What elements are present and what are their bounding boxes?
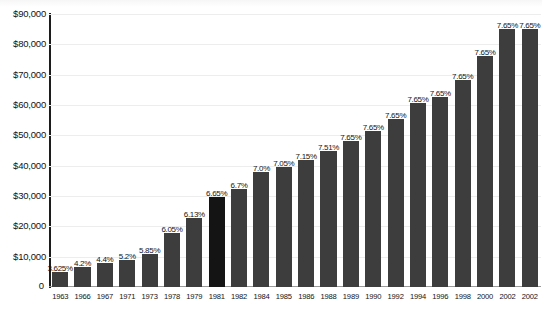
y-axis-tick-label: $10,000: [0, 251, 46, 262]
x-axis-tick-label: 1998: [452, 292, 474, 301]
bar-column[interactable]: 7.65%: [474, 14, 496, 287]
bar-column[interactable]: 7.65%: [429, 14, 451, 287]
bar-column[interactable]: 6.7%: [228, 14, 250, 287]
bar-value-label: 7.65%: [407, 95, 428, 104]
bar[interactable]: 7.51%: [320, 151, 336, 288]
y-axis-tick-label: $40,000: [0, 160, 46, 171]
bar[interactable]: 4.4%: [97, 263, 113, 287]
y-axis-tick-label: 0: [0, 280, 44, 291]
bar-value-label: 7.65%: [452, 72, 473, 81]
bar[interactable]: 7.65%: [477, 56, 493, 287]
bar[interactable]: 3.625%: [52, 272, 68, 287]
bar-value-label: 7.0%: [253, 164, 270, 173]
bottom-margin: [0, 309, 542, 319]
bar-value-label: 7.65%: [519, 21, 540, 30]
x-axis-tick-label: 1981: [206, 292, 228, 301]
bar-column[interactable]: 6.05%: [161, 14, 183, 287]
x-axis-tick-label: 1988: [317, 292, 339, 301]
bar-column[interactable]: 7.65%: [496, 14, 518, 287]
bar[interactable]: 7.0%: [253, 172, 269, 287]
x-axis-tick-label: 1985: [273, 292, 295, 301]
bar[interactable]: 7.65%: [522, 29, 538, 287]
bar-value-label: 7.15%: [296, 152, 317, 161]
y-axis-tick-label: $80,000: [0, 38, 46, 49]
bar[interactable]: 7.65%: [432, 97, 448, 287]
bar-chart: 0$10,000$20,000$30,000$40,000$50,000$60,…: [0, 0, 542, 319]
x-axis-tick-label: 1967: [94, 292, 116, 301]
x-axis-tick-label: 1978: [161, 292, 183, 301]
bar[interactable]: 7.15%: [298, 160, 314, 287]
bar[interactable]: 7.05%: [276, 167, 292, 287]
x-axis-tick-label: 1986: [295, 292, 317, 301]
bar-column[interactable]: 4.4%: [94, 14, 116, 287]
bar-column[interactable]: 7.65%: [407, 14, 429, 287]
bar[interactable]: 5.85%: [142, 254, 158, 287]
bar-column[interactable]: 7.65%: [362, 14, 384, 287]
bar-value-label: 6.13%: [184, 210, 205, 219]
bar-column[interactable]: 7.65%: [384, 14, 406, 287]
bar-column[interactable]: 7.51%: [317, 14, 339, 287]
bar-value-label: 5.2%: [119, 252, 136, 261]
bar-value-label: 7.65%: [363, 123, 384, 132]
x-axis-tick-label: 1984: [250, 292, 272, 301]
x-axis-tick-label: 1979: [183, 292, 205, 301]
bar[interactable]: 4.2%: [74, 267, 90, 287]
bar-value-label: 6.05%: [161, 225, 182, 234]
x-axis-tick-label: 1996: [429, 292, 451, 301]
bar-value-label: 4.4%: [96, 255, 113, 264]
y-axis-tick-label: $30,000: [0, 190, 46, 201]
bar-column[interactable]: 4.2%: [71, 14, 93, 287]
bar-column[interactable]: 7.0%: [250, 14, 272, 287]
x-axis-tick-label: 1963: [49, 292, 71, 301]
bar-column[interactable]: 7.15%: [295, 14, 317, 287]
bar-value-label: 7.65%: [340, 133, 361, 142]
bar-column[interactable]: 7.65%: [340, 14, 362, 287]
x-axis-tick-label: 1990: [362, 292, 384, 301]
bar[interactable]: 7.65%: [410, 103, 426, 287]
y-axis-tick-label: $70,000: [0, 69, 46, 80]
bar-value-label: 7.51%: [318, 143, 339, 152]
bar-column[interactable]: 5.2%: [116, 14, 138, 287]
x-axis-tick-label: 1973: [138, 292, 160, 301]
bar-value-label: 7.65%: [474, 48, 495, 57]
y-axis-tick-label: $60,000: [0, 99, 46, 110]
bar-value-label: 6.65%: [206, 189, 227, 198]
x-axis-tick-label: 1966: [71, 292, 93, 301]
bar-value-label: 5.85%: [139, 246, 160, 255]
bar[interactable]: 6.13%: [186, 218, 202, 287]
bar[interactable]: 7.65%: [388, 119, 404, 287]
bars-container: 3.625%4.2%4.4%5.2%5.85%6.05%6.13%6.65%6.…: [49, 14, 541, 287]
bar-value-label: 6.7%: [231, 181, 248, 190]
bar-value-label: 4.2%: [74, 259, 91, 268]
bar-value-label: 7.05%: [273, 159, 294, 168]
bar-column[interactable]: 7.65%: [452, 14, 474, 287]
x-axis-tick-label: 1989: [340, 292, 362, 301]
bar[interactable]: 6.05%: [164, 233, 180, 287]
x-axis-tick-label: 1992: [384, 292, 406, 301]
bar-column[interactable]: 7.65%: [519, 14, 541, 287]
bar-column[interactable]: 3.625%: [49, 14, 71, 287]
bar-column[interactable]: 5.85%: [138, 14, 160, 287]
y-axis-tick-label: $50,000: [0, 129, 46, 140]
bar[interactable]: 5.2%: [119, 260, 135, 287]
top-gradient: [0, 0, 542, 7]
x-axis-tick-label: 1994: [407, 292, 429, 301]
bar-value-label: 7.65%: [497, 21, 518, 30]
bar[interactable]: 7.65%: [343, 141, 359, 287]
bar-column[interactable]: 7.05%: [273, 14, 295, 287]
bar-column[interactable]: 6.13%: [183, 14, 205, 287]
x-axis-tick-label: 1982: [228, 292, 250, 301]
bar[interactable]: 7.65%: [365, 131, 381, 287]
bar-column[interactable]: 6.65%: [206, 14, 228, 287]
x-axis-tick-label: 2000: [474, 292, 496, 301]
bar[interactable]: 6.65%: [209, 197, 225, 287]
x-axis-tick-label: 2002: [519, 292, 541, 301]
bar[interactable]: 7.65%: [455, 80, 471, 287]
bar[interactable]: 7.65%: [499, 29, 515, 287]
x-axis-tick-label: 2002: [496, 292, 518, 301]
bar-value-label: 3.625%: [48, 264, 73, 273]
x-axis-tick-label: 1971: [116, 292, 138, 301]
bar[interactable]: 6.7%: [231, 189, 247, 287]
bar-value-label: 7.65%: [385, 111, 406, 120]
y-axis-tick-label: $90,000: [0, 8, 46, 19]
